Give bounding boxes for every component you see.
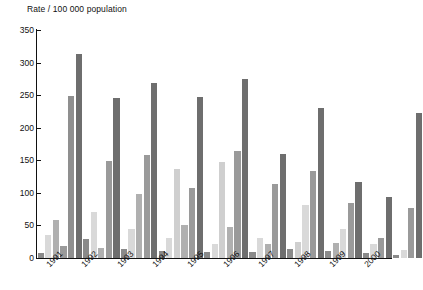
y-tick-mark [37,258,41,259]
bar-groups [37,30,391,258]
y-axis-title: Rate / 100 000 population [27,4,127,14]
bar [416,113,422,258]
bar-group [120,30,158,258]
y-tick-mark [37,95,41,96]
y-tick-label: 0 [29,253,34,263]
bar-group [324,30,362,258]
bar-group [362,30,392,258]
bar-group [37,30,82,258]
bar [106,161,112,258]
bar [287,249,293,258]
y-tick-mark [37,30,41,31]
x-label-cell: 1997 [249,259,284,290]
y-tick-label: 350 [20,25,34,35]
bar-group [82,30,120,258]
bar [280,154,286,258]
y-tick-mark [37,193,41,194]
bar [219,162,225,258]
x-label-cell: 1992 [72,259,107,290]
bar [189,188,195,258]
bar-group [158,30,203,258]
bar [386,197,392,258]
bar [113,98,119,258]
bar-group [287,30,325,258]
bar [393,255,399,258]
bar [197,97,203,258]
bar [151,83,157,258]
plot-area [37,30,391,258]
x-label-cell: 1998 [285,259,320,290]
bar-group [203,30,248,258]
bar [401,250,407,258]
y-tick-mark [37,225,41,226]
bar-group [392,30,422,258]
y-axis-ticks: 050100150200250300350 [0,0,34,290]
x-label-cell: 2000 [356,259,391,290]
x-axis-labels: 1991199219931994199519961997199819992000 [37,259,391,290]
bar-group [249,30,287,258]
x-label-cell: 1991 [37,259,72,290]
bar [212,244,218,258]
bar [76,54,82,258]
y-tick-mark [37,160,41,161]
y-tick-mark [37,63,41,64]
x-label-cell: 1999 [320,259,355,290]
x-label-cell: 1994 [143,259,178,290]
bar [181,225,187,258]
bar [136,194,142,258]
y-tick-label: 200 [20,123,34,133]
y-tick-label: 300 [20,58,34,68]
bar [272,184,278,258]
bar [355,182,361,258]
bar [249,252,255,258]
bar [242,79,248,258]
bar [408,208,414,258]
bar [144,155,150,258]
x-label-cell: 1995 [179,259,214,290]
bar [174,169,180,258]
x-label-cell: 1993 [108,259,143,290]
bar [98,248,104,258]
y-tick-label: 100 [20,188,34,198]
bar [348,203,354,258]
bar [310,171,316,258]
y-tick-label: 250 [20,90,34,100]
x-label-cell: 1996 [214,259,249,290]
y-tick-label: 150 [20,155,34,165]
bar [68,96,74,258]
y-tick-mark [37,128,41,129]
bar [234,151,240,258]
bar [318,108,324,258]
y-tick-label: 50 [25,220,34,230]
